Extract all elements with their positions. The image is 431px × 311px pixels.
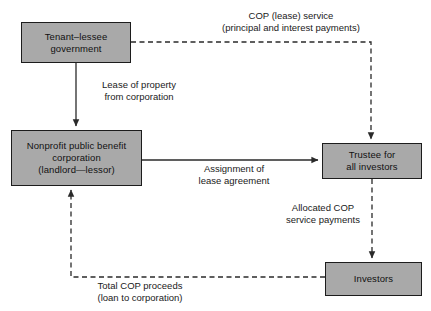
node-nonprofit-public-benefit-corporation[interactable]: Nonprofit public benefit corporation (la… <box>11 130 142 186</box>
node-trustee-for-all-investors[interactable]: Trustee for all investors <box>322 143 422 179</box>
edge-label-total-cop-proceeds: Total COP proceeds (loan to corporation) <box>62 280 218 304</box>
edge-label-allocated-cop-service-payments: Allocated COP service payments <box>264 202 382 226</box>
edge-label-assignment-of-lease-agreement: Assignment of lease agreement <box>172 163 296 187</box>
edge-label-cop-lease-service: COP (lease) service (principal and inter… <box>188 10 394 34</box>
node-investors[interactable]: Investors <box>325 262 422 296</box>
node-tenant-lessee-government[interactable]: Tenant–lessee government <box>21 22 131 63</box>
edge-label-lease-of-property: Lease of property from corporation <box>76 79 202 103</box>
